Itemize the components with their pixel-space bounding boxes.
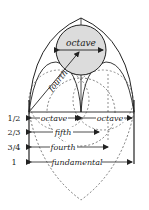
ratio-half: 1/2	[8, 114, 21, 123]
ratio-fifth-label: fifth	[54, 128, 72, 137]
ratio-two-thirds: 2/3	[8, 128, 21, 137]
gothic-arch-diagram: octave fourth octave octave fifth fourth…	[0, 0, 149, 210]
circle-octave-label: octave	[66, 38, 96, 48]
ratio-fourth-label: fourth	[49, 143, 75, 152]
ratio-one: 1	[11, 158, 16, 167]
ratio-three-quarters: 3/4	[8, 143, 21, 152]
ratio-half-left-label: octave	[41, 114, 68, 123]
ratio-fundamental-label: fundamental	[50, 158, 103, 167]
ratio-half-right-label: octave	[97, 114, 124, 123]
